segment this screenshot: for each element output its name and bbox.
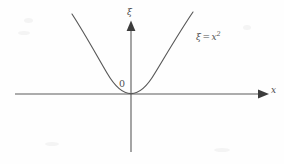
y-axis-label: ξ [127,8,132,17]
y-axis-arrowhead [127,21,136,32]
x-axis-arrowhead [258,90,269,99]
curve-label-rhs-exponent: 2 [217,30,221,38]
origin-label: 0 [119,79,125,89]
plot-svg [0,0,284,164]
figure-canvas: 0 x ξ ξ=x2 [0,0,284,164]
curve-label-equals: = [201,32,212,42]
axes-group [15,21,269,153]
curve-equation-label: ξ=x2 [196,31,221,42]
x-axis-label: x [271,86,276,95]
